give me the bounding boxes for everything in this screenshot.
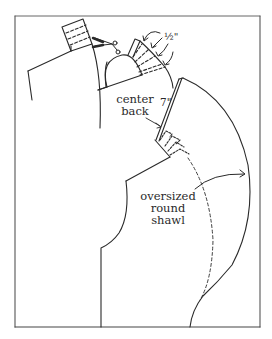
frame bbox=[15, 16, 260, 327]
shawl-line3: shawl bbox=[138, 214, 198, 226]
pattern-diagram: ½" center back 7" oversized round shawl bbox=[0, 0, 272, 339]
pattern-drawing bbox=[0, 0, 272, 339]
center-back-label: center back bbox=[112, 93, 158, 117]
scissors-icon bbox=[93, 38, 120, 54]
shawl-label: oversized round shawl bbox=[138, 190, 198, 226]
upper-back-piece bbox=[28, 19, 100, 128]
seven-inch-label: 7" bbox=[160, 96, 172, 108]
middle-piece bbox=[98, 39, 173, 90]
shawl-arrow bbox=[195, 170, 245, 189]
half-inch-label: ½" bbox=[164, 31, 178, 43]
center-back-line2: back bbox=[112, 105, 158, 117]
